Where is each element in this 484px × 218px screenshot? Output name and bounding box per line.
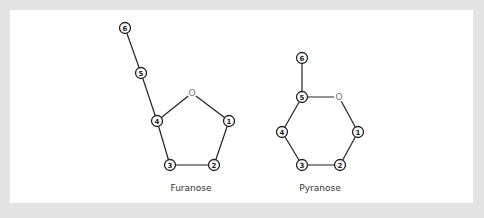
structure-caption: Pyranose [299,183,341,193]
carbon-node-2: 2 [335,160,346,171]
bond-4-5 [141,73,157,121]
carbon-node-1: 1 [353,127,364,138]
carbon-node-1: 1 [224,116,235,127]
carbon-node-4: 4 [152,116,163,127]
pyranose-structure: O123456Pyranose [277,53,364,194]
carbon-node-4: 4 [277,127,288,138]
carbon-number: 3 [300,162,305,170]
carbon-number: 6 [123,25,128,33]
carbon-node-5: 5 [136,68,147,79]
ring-oxygen: O [187,88,197,98]
carbon-node-3: 3 [297,160,308,171]
carbon-node-3: 3 [165,160,176,171]
carbon-node-5: 5 [297,92,308,103]
structure-caption: Furanose [170,183,212,193]
carbon-number: 6 [300,55,305,63]
carbon-node-6: 6 [120,23,131,34]
ring-oxygen: O [334,92,344,102]
bond-O-1 [192,93,229,121]
carbon-number: 4 [280,129,285,137]
sugar-ring-diagram: O123456Furanose O123456Pyranose [0,0,484,218]
bond-3-4 [157,121,170,165]
carbon-number: 4 [155,118,160,126]
oxygen-label: O [335,92,342,102]
carbon-number: 1 [227,118,232,126]
bond-4-O [157,93,192,121]
carbon-number: 5 [300,94,305,102]
carbon-number: 2 [338,162,343,170]
bond-5-6 [125,28,141,73]
carbon-number: 5 [139,70,144,78]
carbon-number: 3 [168,162,173,170]
furanose-structure: O123456Furanose [120,23,235,194]
bond-1-2 [214,121,229,165]
carbon-node-2: 2 [209,160,220,171]
carbon-number: 1 [356,129,361,137]
carbon-number: 2 [212,162,217,170]
oxygen-label: O [188,88,195,98]
carbon-node-6: 6 [297,53,308,64]
